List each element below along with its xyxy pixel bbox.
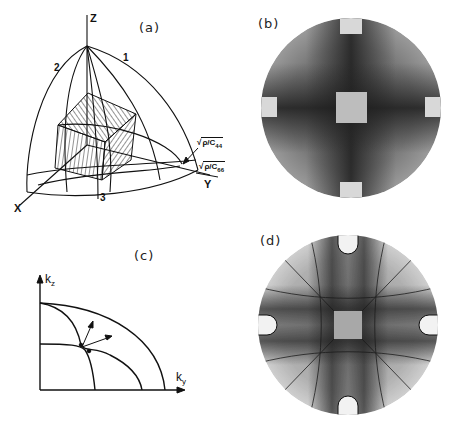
panel-b: (b) — [240, 0, 455, 215]
focusing-pattern-b — [240, 0, 455, 215]
panel-a: (a) Z X Y 1 2 3 √ρ/C44 √ρ/C66 — [0, 0, 235, 220]
curve-label-3: 3 — [100, 192, 106, 203]
panel-b-label: (b) — [258, 16, 279, 31]
c44-annotation: √ρ/C44 — [197, 138, 223, 149]
y-axis-label: Y — [204, 178, 211, 190]
panel-c: (c) kz ky — [0, 220, 240, 430]
slowness-surface-diagram — [0, 0, 235, 220]
c66-annotation: √ρ/C66 — [199, 162, 225, 173]
x-axis-label: X — [14, 202, 21, 214]
z-axis-label: Z — [90, 12, 97, 24]
panel-c-label: (c) — [134, 248, 154, 263]
panel-a-label: (a) — [139, 20, 160, 35]
ky-axis-label: ky — [176, 370, 186, 386]
slowness-curves-diagram — [0, 220, 240, 430]
curve-label-1: 1 — [123, 52, 129, 63]
panel-d-label: (d) — [260, 233, 281, 248]
curve-label-2: 2 — [54, 62, 60, 73]
kz-axis-label: kz — [45, 272, 55, 288]
panel-d: (d) — [240, 215, 455, 430]
